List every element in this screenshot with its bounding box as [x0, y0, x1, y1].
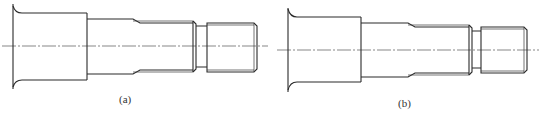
flange-top-a: [13, 6, 87, 13]
flange-bottom-b: [288, 82, 361, 90]
thread-a: [207, 23, 257, 72]
neck-a: [196, 26, 207, 67]
technical-drawing: [0, 0, 541, 113]
shaft-drawing-a: [2, 4, 268, 89]
flange-bottom-a: [13, 80, 87, 87]
neck-b: [472, 31, 481, 68]
flange-top-b: [288, 9, 361, 17]
shaft-drawing-b: [277, 8, 539, 92]
caption-a: (a): [119, 93, 131, 105]
caption-b: (b): [398, 97, 411, 109]
